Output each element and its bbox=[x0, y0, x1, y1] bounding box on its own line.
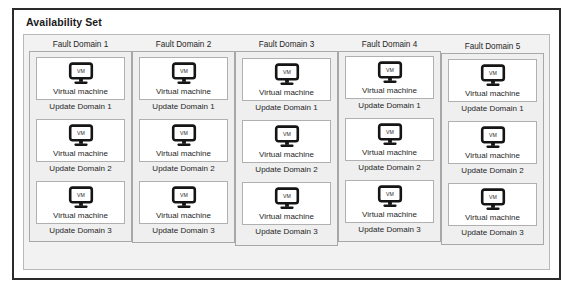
update-domain-2: VM Virtual machineUpdate Domain 2 bbox=[448, 121, 537, 177]
vm-icon-label: VM bbox=[283, 69, 291, 75]
update-domain-2: VM Virtual machineUpdate Domain 2 bbox=[139, 119, 228, 175]
virtual-machine-label: Virtual machine bbox=[465, 150, 520, 161]
virtual-machine-monitor-icon: VM bbox=[272, 187, 302, 211]
virtual-machine-label: Virtual machine bbox=[156, 86, 211, 97]
virtual-machine-card[interactable]: VM Virtual machine bbox=[242, 182, 331, 225]
virtual-machine-monitor-icon: VM bbox=[375, 185, 405, 209]
virtual-machine-label: Virtual machine bbox=[259, 87, 314, 98]
virtual-machine-card[interactable]: VM Virtual machine bbox=[139, 119, 228, 162]
update-domain-1: VM Virtual machineUpdate Domain 1 bbox=[36, 57, 125, 113]
vm-icon-label: VM bbox=[489, 132, 497, 138]
virtual-machine-monitor-icon: VM bbox=[66, 62, 96, 86]
virtual-machine-monitor-icon: VM bbox=[169, 62, 199, 86]
virtual-machine-card[interactable]: VM Virtual machine bbox=[36, 119, 125, 162]
fault-domain-label: Fault Domain 2 bbox=[156, 38, 212, 51]
fault-domain-label: Fault Domain 5 bbox=[465, 40, 521, 53]
virtual-machine-card[interactable]: VM Virtual machine bbox=[139, 57, 228, 100]
vm-icon-label: VM bbox=[386, 129, 394, 135]
fault-domain-3: Fault Domain 3 VM Virtual machineUpdate … bbox=[235, 38, 338, 246]
update-domain-label: Update Domain 3 bbox=[461, 226, 523, 239]
vm-icon-label: VM bbox=[386, 67, 394, 73]
virtual-machine-card[interactable]: VM Virtual machine bbox=[242, 120, 331, 163]
update-domain-label: Update Domain 1 bbox=[49, 100, 111, 113]
update-domain-label: Update Domain 1 bbox=[358, 99, 420, 112]
update-domain-1: VM Virtual machineUpdate Domain 1 bbox=[448, 59, 537, 115]
virtual-machine-card[interactable]: VM Virtual machine bbox=[448, 183, 537, 226]
virtual-machine-card[interactable]: VM Virtual machine bbox=[36, 57, 125, 100]
virtual-machine-label: Virtual machine bbox=[53, 148, 108, 159]
fault-domain-4: Fault Domain 4 VM Virtual machineUpdate … bbox=[338, 38, 441, 242]
vm-icon-label: VM bbox=[386, 191, 394, 197]
fault-domain-box: VM Virtual machineUpdate Domain 1 VM Vir… bbox=[441, 53, 544, 245]
virtual-machine-monitor-icon: VM bbox=[66, 124, 96, 148]
fault-domain-box: VM Virtual machineUpdate Domain 1 VM Vir… bbox=[338, 51, 441, 242]
virtual-machine-monitor-icon: VM bbox=[478, 126, 508, 150]
update-domain-label: Update Domain 3 bbox=[358, 223, 420, 236]
vm-icon-label: VM bbox=[489, 70, 497, 76]
fault-domain-label: Fault Domain 4 bbox=[362, 38, 418, 51]
vm-icon-label: VM bbox=[489, 194, 497, 200]
virtual-machine-card[interactable]: VM Virtual machine bbox=[448, 121, 537, 164]
update-domain-2: VM Virtual machineUpdate Domain 2 bbox=[36, 119, 125, 175]
update-domain-label: Update Domain 2 bbox=[358, 161, 420, 174]
vm-icon-label: VM bbox=[180, 68, 188, 74]
vm-icon-label: VM bbox=[283, 131, 291, 137]
update-domain-1: VM Virtual machineUpdate Domain 1 bbox=[139, 57, 228, 113]
virtual-machine-label: Virtual machine bbox=[465, 212, 520, 223]
vm-icon-label: VM bbox=[77, 130, 85, 136]
fault-domain-5: Fault Domain 5 VM Virtual machineUpdate … bbox=[441, 40, 544, 245]
fault-domain-label: Fault Domain 3 bbox=[259, 38, 315, 51]
virtual-machine-card[interactable]: VM Virtual machine bbox=[448, 59, 537, 102]
update-domain-label: Update Domain 2 bbox=[49, 162, 111, 175]
virtual-machine-label: Virtual machine bbox=[362, 85, 417, 96]
availability-set-title: Availability Set bbox=[26, 16, 102, 28]
fault-domain-box: VM Virtual machineUpdate Domain 1 VM Vir… bbox=[235, 51, 338, 246]
virtual-machine-label: Virtual machine bbox=[156, 148, 211, 159]
update-domain-3: VM Virtual machineUpdate Domain 3 bbox=[448, 183, 537, 239]
vm-icon-label: VM bbox=[180, 130, 188, 136]
virtual-machine-card[interactable]: VM Virtual machine bbox=[345, 180, 434, 223]
virtual-machine-label: Virtual machine bbox=[362, 209, 417, 220]
update-domain-2: VM Virtual machineUpdate Domain 2 bbox=[345, 118, 434, 174]
update-domain-label: Update Domain 2 bbox=[152, 162, 214, 175]
virtual-machine-card[interactable]: VM Virtual machine bbox=[242, 58, 331, 101]
virtual-machine-monitor-icon: VM bbox=[478, 64, 508, 88]
virtual-machine-monitor-icon: VM bbox=[169, 186, 199, 210]
virtual-machine-card[interactable]: VM Virtual machine bbox=[345, 118, 434, 161]
diagram-canvas: Availability Set Fault Domain 1 VM Virtu… bbox=[0, 0, 575, 295]
virtual-machine-card[interactable]: VM Virtual machine bbox=[345, 56, 434, 99]
update-domain-3: VM Virtual machineUpdate Domain 3 bbox=[242, 182, 331, 238]
update-domain-3: VM Virtual machineUpdate Domain 3 bbox=[345, 180, 434, 236]
update-domain-label: Update Domain 1 bbox=[461, 102, 523, 115]
virtual-machine-monitor-icon: VM bbox=[169, 124, 199, 148]
update-domain-label: Update Domain 1 bbox=[152, 100, 214, 113]
fault-domain-2: Fault Domain 2 VM Virtual machineUpdate … bbox=[132, 38, 235, 243]
update-domain-2: VM Virtual machineUpdate Domain 2 bbox=[242, 120, 331, 176]
virtual-machine-label: Virtual machine bbox=[156, 210, 211, 221]
virtual-machine-label: Virtual machine bbox=[465, 88, 520, 99]
virtual-machine-card[interactable]: VM Virtual machine bbox=[36, 181, 125, 224]
vm-icon-label: VM bbox=[283, 193, 291, 199]
update-domain-1: VM Virtual machineUpdate Domain 1 bbox=[345, 56, 434, 112]
virtual-machine-label: Virtual machine bbox=[259, 149, 314, 160]
update-domain-label: Update Domain 2 bbox=[255, 163, 317, 176]
virtual-machine-label: Virtual machine bbox=[259, 211, 314, 222]
update-domain-3: VM Virtual machineUpdate Domain 3 bbox=[36, 181, 125, 237]
virtual-machine-label: Virtual machine bbox=[53, 210, 108, 221]
virtual-machine-monitor-icon: VM bbox=[375, 61, 405, 85]
virtual-machine-card[interactable]: VM Virtual machine bbox=[139, 181, 228, 224]
availability-set-container: Availability Set Fault Domain 1 VM Virtu… bbox=[12, 8, 561, 280]
virtual-machine-label: Virtual machine bbox=[53, 86, 108, 97]
fault-domain-panel: Fault Domain 1 VM Virtual machineUpdate … bbox=[23, 34, 550, 270]
virtual-machine-monitor-icon: VM bbox=[375, 123, 405, 147]
virtual-machine-monitor-icon: VM bbox=[272, 63, 302, 87]
update-domain-3: VM Virtual machineUpdate Domain 3 bbox=[139, 181, 228, 237]
vm-icon-label: VM bbox=[77, 68, 85, 74]
fault-domain-box: VM Virtual machineUpdate Domain 1 VM Vir… bbox=[132, 51, 235, 243]
update-domain-1: VM Virtual machineUpdate Domain 1 bbox=[242, 58, 331, 114]
update-domain-label: Update Domain 2 bbox=[461, 164, 523, 177]
update-domain-label: Update Domain 3 bbox=[49, 224, 111, 237]
virtual-machine-monitor-icon: VM bbox=[478, 188, 508, 212]
vm-icon-label: VM bbox=[180, 192, 188, 198]
vm-icon-label: VM bbox=[77, 192, 85, 198]
